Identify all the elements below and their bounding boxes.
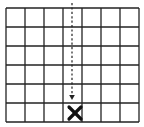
grid-diagram <box>0 0 144 127</box>
grid-board <box>0 0 144 127</box>
